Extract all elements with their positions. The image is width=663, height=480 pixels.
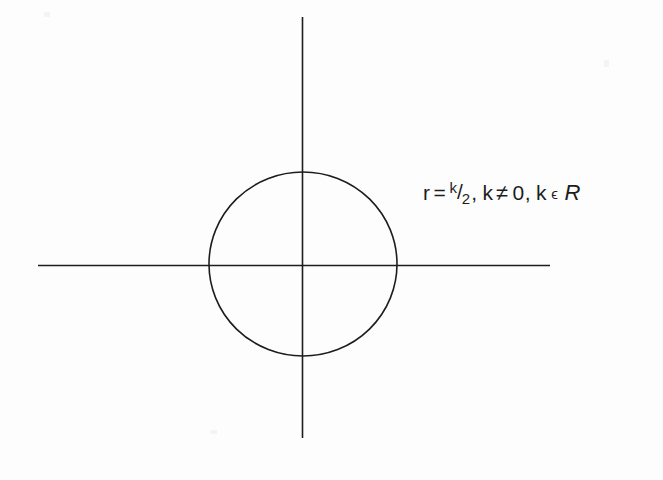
equation-zero: 0 — [512, 181, 524, 204]
equation-param-k-2: k — [536, 181, 547, 204]
equation-comma-2: , — [525, 181, 536, 204]
fraction-denominator: 2 — [462, 190, 470, 207]
not-equal-icon: ≠ — [494, 180, 513, 205]
equation-equals-sign: = — [431, 181, 450, 204]
equation-annotation: r=k/2,k≠0,kϵR — [423, 182, 581, 204]
polar-circle-figure: r=k/2,k≠0,kϵR — [0, 0, 663, 480]
fraction-k-over-2: k/2 — [449, 181, 471, 202]
equation-comma-1: , — [471, 181, 482, 204]
equation-param-k: k — [483, 181, 494, 204]
equation-set-name: R — [562, 180, 581, 205]
equation-variable-r: r — [423, 181, 431, 204]
fraction-numerator: k — [449, 179, 457, 196]
element-of-icon: ϵ — [547, 185, 562, 202]
figure-canvas — [0, 0, 663, 480]
